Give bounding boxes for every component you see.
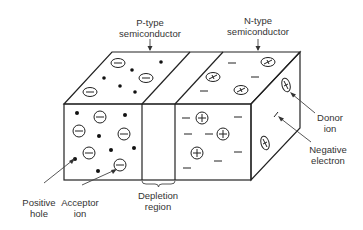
acceptor-ion-icon (111, 59, 125, 68)
acceptor-ion-icon (83, 88, 97, 97)
donor-ion-icon (191, 147, 203, 159)
positive-hole-label-line2: hole (30, 208, 48, 219)
donor-ion-icon (196, 112, 208, 124)
p-type-label-line2: semiconductor (119, 28, 181, 39)
n-type-label-line2: semiconductor (227, 26, 289, 37)
positive-hole-dot-icon (132, 146, 136, 150)
hole-dot-icon (159, 60, 163, 64)
donor-ion-icon (206, 73, 220, 82)
acceptor-ion-icon (83, 147, 95, 159)
donor-ion-icon (217, 128, 229, 140)
acceptor-ion-label-line1: Acceptor (61, 197, 99, 208)
p-region-front-charges (73, 111, 136, 173)
depletion-region-label-line1: Depletion (138, 190, 178, 201)
hole-dot-icon (118, 84, 122, 88)
donor-ion-icon (259, 135, 270, 151)
positive-hole-dot-icon (123, 113, 127, 117)
hole-dot-icon (133, 90, 137, 94)
n-type-label-line1: N-type (244, 15, 272, 26)
right-face (251, 52, 300, 180)
depletion-region-label-line2: region (145, 201, 171, 212)
p-type-label-line1: P-type (136, 17, 163, 28)
p-region-top-charges (83, 59, 163, 97)
acceptor-ion-icon (114, 159, 126, 171)
n-region-top-charges (200, 58, 275, 95)
donor-ion-icon (261, 58, 275, 67)
donor-ion-icon (234, 86, 248, 95)
n-region-side-charges (259, 77, 291, 151)
acceptor-ion-icon (139, 74, 153, 83)
pn-junction-diagram: P-type semiconductor N-type semiconducto… (0, 0, 363, 230)
acceptor-ion-label-line2: ion (74, 208, 87, 219)
hole-dot-icon (102, 76, 106, 80)
positive-hole-dot-icon (109, 148, 113, 152)
acceptor-ion-icon (118, 128, 130, 140)
n-region-front-charges (182, 112, 242, 168)
donor-ion-label-line1: Donor (317, 112, 343, 123)
hole-dot-icon (130, 68, 134, 72)
donor-ion-icon (280, 77, 291, 93)
donor-ion-label-line2: ion (324, 123, 337, 134)
negative-electron-dash-icon (274, 112, 278, 117)
front-face (64, 104, 251, 180)
negative-electron-label-line1: Negative (309, 144, 347, 155)
positive-hole-dot-icon (97, 134, 101, 138)
acceptor-ion-icon (73, 125, 85, 137)
acceptor-ion-icon (94, 111, 106, 123)
positive-hole-dot-icon (96, 169, 100, 173)
positive-hole-label-line1: Positive (22, 197, 55, 208)
negative-electron-label-line2: electron (311, 155, 345, 166)
positive-hole-dot-icon (75, 111, 79, 115)
